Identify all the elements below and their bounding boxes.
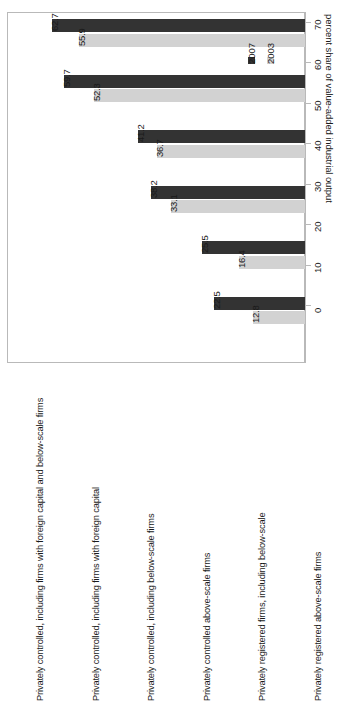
tick-label-40: 40 (312, 141, 323, 152)
tick-label-0: 0 (312, 308, 323, 313)
legend-entry-2007[interactable]: 2007 (246, 16, 262, 64)
bar-value-label-2003-1: 55.9 (76, 28, 87, 46)
tick-mark-50 (306, 103, 311, 104)
category-axis-labels: Privately controlled, including firms wi… (0, 366, 360, 707)
category-label-5: Privately registered firms, including be… (257, 513, 267, 701)
tick-label-50: 50 (312, 100, 323, 111)
tick-mark-30 (306, 184, 311, 185)
bar-value-label-2007-6: 22.5 (211, 291, 222, 309)
tick-label-60: 60 (312, 60, 323, 71)
bar-2003-6 (253, 311, 305, 324)
category-label-4: Privately controlled above-scale firms (202, 553, 212, 701)
bar-value-label-2003-6: 12.8 (250, 305, 261, 323)
value-axis-title: percent share of value-added industrial … (324, 14, 335, 203)
bar-value-label-2007-5: 25.5 (199, 235, 210, 253)
bar-value-label-2007-3: 41.2 (135, 124, 146, 142)
tick-mark-10 (306, 265, 311, 266)
bar-value-label-2003-4: 33.1 (168, 194, 179, 212)
bar-value-label-2003-2: 52.3 (91, 83, 102, 101)
bar-value-label-2007-1: 62.7 (49, 13, 60, 31)
bar-2003-4 (171, 200, 305, 213)
legend-label-2007: 2007 (246, 43, 257, 64)
bar-2003-3 (157, 145, 305, 158)
legend-entry-2003[interactable]: 2003 (265, 16, 281, 64)
bar-2007-5 (202, 241, 305, 254)
category-label-2: Privately controlled, including firms wi… (91, 487, 101, 701)
value-axis-line (305, 12, 306, 363)
bar-2003-5 (239, 256, 305, 269)
bar-2003-2 (94, 89, 305, 102)
bar-value-label-2007-4: 38.2 (148, 180, 159, 198)
legend-label-2003: 2003 (265, 43, 276, 64)
tick-label-20: 20 (312, 222, 323, 233)
tick-mark-70 (306, 22, 311, 23)
bar-value-label-2003-5: 16.4 (236, 250, 247, 268)
tick-label-30: 30 (312, 181, 323, 192)
tick-mark-0 (306, 305, 311, 306)
category-label-1: Privately controlled, including firms wi… (35, 398, 45, 701)
category-label-3: Privately controlled, including below-sc… (146, 514, 156, 701)
chart-legend: 2007 2003 (246, 16, 300, 64)
category-label-6: Privately registered above-scale firms (313, 552, 323, 701)
tick-mark-20 (306, 224, 311, 225)
bar-value-label-2007-2: 59.7 (61, 69, 72, 87)
bar-value-label-2003-3: 36.7 (154, 139, 165, 157)
tick-label-70: 70 (312, 19, 323, 30)
tick-mark-60 (306, 62, 311, 63)
tick-label-10: 10 (312, 262, 323, 273)
tick-mark-40 (306, 143, 311, 144)
